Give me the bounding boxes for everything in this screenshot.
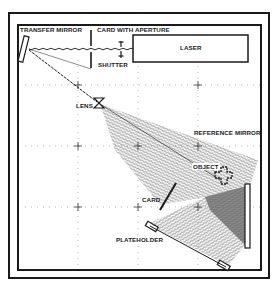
label-shutter: SHUTTER	[98, 61, 128, 68]
label-plateholder: PLATEHOLDER	[116, 236, 163, 243]
lens	[94, 98, 104, 108]
label-laser: LASER	[180, 44, 201, 51]
label-card-with-aperture: CARD WITH APERTURE	[97, 26, 170, 33]
label-transfer-mirror: TRANSFER MIRROR	[20, 26, 82, 33]
laser-beam	[29, 48, 133, 50]
label-reference-mirror: REFERENCE MIRROR	[194, 129, 261, 136]
label-lens: LENS	[76, 102, 93, 109]
mirror-to-lens-beam	[29, 50, 97, 102]
label-card: CARD	[142, 196, 160, 203]
label-object: OBJECT	[192, 163, 220, 170]
transfer-mirror	[18, 36, 29, 62]
reference-mirror	[245, 184, 250, 248]
